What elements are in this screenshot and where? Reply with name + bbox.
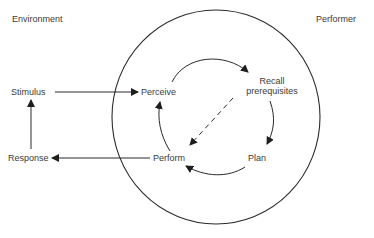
perceive-node-label: Perceive [141, 87, 176, 97]
stimulus-node-label: Stimulus [11, 87, 46, 97]
recall-label-line2: prerequisites [232, 86, 312, 96]
arrow-recall-to-perform-dashed [190, 98, 233, 145]
arrow-recall-to-plan [267, 101, 274, 144]
recall-prerequisites-node-label: Recall prerequisites [232, 76, 312, 96]
arrow-plan-to-perform [186, 166, 245, 175]
perform-node-label: Perform [153, 153, 185, 163]
response-node-label: Response [8, 153, 49, 163]
diagram-canvas [0, 0, 374, 238]
recall-label-line1: Recall [232, 76, 312, 86]
performer-boundary-circle [112, 10, 320, 224]
performer-region-label: Performer [316, 14, 356, 24]
plan-node-label: Plan [248, 153, 266, 163]
arrow-perform-to-perceive [159, 102, 170, 151]
environment-region-label: Environment [12, 14, 63, 24]
